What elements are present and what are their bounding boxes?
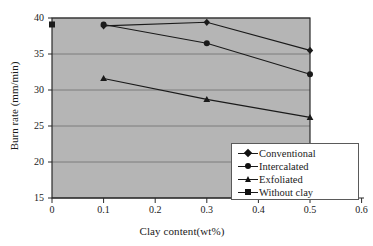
legend-marker (244, 149, 252, 157)
legend-marker (245, 176, 251, 182)
data-point (204, 40, 210, 46)
legend-label: Intercalated (259, 160, 309, 173)
legend-item-conventional: Conventional (232, 147, 358, 160)
y-tick-label: 30 (18, 85, 44, 95)
legend-item-without-clay: Without clay (232, 186, 358, 199)
y-tick-label: 25 (18, 121, 44, 131)
x-tick-label: 0 (37, 205, 67, 215)
chart-legend: ConventionalIntercalatedExfoliatedWithou… (231, 143, 359, 200)
legend-circle-icon (237, 160, 259, 173)
x-tick-label: 0.3 (192, 205, 222, 215)
x-axis-title: Clay content(wt%) (0, 225, 364, 237)
x-tick-label: 0.5 (295, 205, 325, 215)
y-axis-title: Burn rate (mm/min) (8, 36, 20, 176)
legend-triangle-icon (237, 173, 259, 186)
data-point (307, 71, 313, 77)
legend-item-intercalated: Intercalated (232, 160, 358, 173)
legend-label: Conventional (259, 147, 316, 160)
x-tick-label: 0.2 (140, 205, 170, 215)
legend-diamond-icon (237, 147, 259, 160)
y-tick-label: 15 (18, 193, 44, 203)
x-tick-label: 0.6 (347, 205, 373, 215)
legend-item-exfoliated: Exfoliated (232, 173, 358, 186)
legend-label: Exfoliated (259, 173, 303, 186)
y-tick-label: 20 (18, 157, 44, 167)
series-without-clay (49, 21, 55, 27)
y-tick-label: 35 (18, 49, 44, 59)
legend-marker (245, 189, 251, 195)
x-tick-label: 0.4 (243, 205, 273, 215)
data-point (101, 21, 107, 27)
legend-square-icon (237, 186, 259, 199)
legend-marker (245, 163, 251, 169)
x-tick-label: 0.1 (89, 205, 119, 215)
data-point (49, 21, 55, 27)
legend-label: Without clay (259, 186, 313, 199)
y-tick-label: 40 (18, 13, 44, 23)
